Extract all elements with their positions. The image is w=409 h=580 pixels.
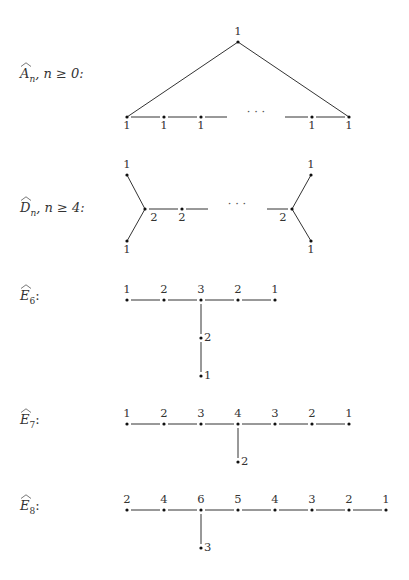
node-weight: 2	[123, 492, 130, 506]
node	[162, 422, 165, 425]
hat-accent-icon	[20, 62, 32, 67]
node-weight: 1	[308, 118, 315, 132]
diagram-condition: , n ≥ 0:	[35, 66, 83, 81]
node-weight: 4	[234, 406, 241, 420]
node	[310, 422, 313, 425]
node	[273, 422, 276, 425]
node	[236, 40, 239, 43]
node	[236, 422, 239, 425]
node-weight: 1	[307, 242, 314, 256]
node	[162, 298, 165, 301]
node	[236, 298, 239, 301]
node-weight: 2	[279, 210, 286, 224]
node-weight: 1	[123, 242, 130, 256]
diagram-condition: :	[35, 288, 39, 303]
node-weight: 2	[204, 330, 211, 344]
node	[273, 298, 276, 301]
node-weight: 3	[197, 406, 204, 420]
node	[199, 422, 202, 425]
node	[347, 508, 350, 511]
node	[143, 207, 146, 210]
node	[273, 508, 276, 511]
node-weight: 1	[234, 24, 241, 38]
diagram-d	[125, 173, 312, 242]
edge	[292, 175, 311, 209]
diagram-label-e6: E6:	[20, 288, 40, 306]
node-weight: 6	[197, 492, 204, 506]
node-weight: 1	[345, 406, 352, 420]
node-weight: 2	[234, 282, 241, 296]
diagram-letter: D	[20, 200, 30, 215]
node-weight: 1	[123, 406, 130, 420]
node-weight: 1	[345, 118, 352, 132]
ellipsis: · · ·	[247, 105, 265, 119]
node	[125, 508, 128, 511]
diagram-letter: E	[20, 288, 30, 303]
node	[199, 336, 202, 339]
node	[236, 460, 239, 463]
diagram-letter: E	[20, 412, 30, 427]
node-weight: 2	[178, 210, 185, 224]
node-weight: 1	[123, 157, 130, 171]
node-weight: 3	[271, 406, 278, 420]
node-weight: 3	[204, 540, 211, 554]
node	[290, 207, 293, 210]
node-weight: 4	[160, 492, 167, 506]
diagram-label-d: Dn, n ≥ 4:	[20, 200, 85, 218]
node-weight: 3	[197, 282, 204, 296]
node	[347, 422, 350, 425]
node	[125, 298, 128, 301]
hat-accent-icon	[20, 494, 32, 499]
node-weight: 2	[160, 282, 167, 296]
node	[236, 508, 239, 511]
diagram-e7	[125, 422, 350, 463]
diagram-label-a: An, n ≥ 0:	[20, 66, 84, 84]
diagram-condition: :	[35, 498, 39, 513]
node-weight: 5	[234, 492, 241, 506]
node	[310, 508, 313, 511]
node-weight: 1	[271, 282, 278, 296]
node-weight: 1	[123, 282, 130, 296]
diagram-a	[125, 40, 350, 118]
hat-accent-icon	[20, 284, 32, 289]
node	[309, 173, 312, 176]
diagram-condition: :	[35, 412, 39, 427]
node-weight: 3	[308, 492, 315, 506]
ellipsis: · · ·	[228, 197, 246, 211]
node	[199, 298, 202, 301]
node	[162, 508, 165, 511]
diagram-label-e8: E8:	[20, 498, 40, 516]
diagram-letter: A	[20, 66, 29, 81]
edge	[127, 42, 238, 117]
node-weight: 1	[123, 118, 130, 132]
diagram-label-e7: E7:	[20, 412, 40, 430]
hat-accent-icon	[20, 408, 32, 413]
node	[199, 508, 202, 511]
node	[125, 173, 128, 176]
node-weight: 2	[345, 492, 352, 506]
node	[384, 508, 387, 511]
diagram-condition: , n ≥ 4:	[36, 200, 84, 215]
node-weight: 2	[150, 210, 157, 224]
node-weight: 1	[307, 157, 314, 171]
diagram-letter: E	[20, 498, 30, 513]
diagram-e6	[125, 298, 276, 377]
node-weight: 1	[382, 492, 389, 506]
node-weight: 1	[197, 118, 204, 132]
node-weight: 1	[204, 368, 211, 382]
node-weight: 2	[241, 454, 248, 468]
node	[125, 422, 128, 425]
diagram-e8	[125, 508, 387, 549]
node-weight: 2	[160, 406, 167, 420]
edge	[292, 209, 311, 241]
node	[199, 374, 202, 377]
node-weight: 2	[308, 406, 315, 420]
edge	[127, 209, 145, 241]
node	[199, 546, 202, 549]
node-weight: 4	[271, 492, 278, 506]
edge	[127, 175, 145, 209]
hat-accent-icon	[20, 196, 32, 201]
node-weight: 1	[160, 118, 167, 132]
